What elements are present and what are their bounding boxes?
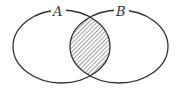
set-a-label: A [52,4,62,19]
set-b-label: B [115,4,126,19]
venn-diagram: A B [0,0,178,92]
